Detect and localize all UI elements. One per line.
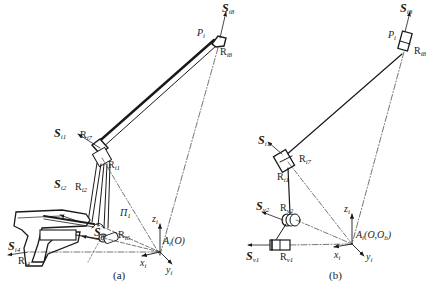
label-a-p-i: Pi (197, 28, 205, 40)
label-b-p-i: Pi (388, 30, 396, 42)
label-a-z-axis: zi (152, 214, 158, 226)
label-a-s-i2: Si2 (54, 178, 66, 192)
label-b-s-i1: Si1 (258, 134, 270, 148)
diagram-graphics (0, 0, 431, 288)
label-a-r-i2: Ri2 (75, 182, 87, 194)
label-b-r-v2: Rv2 (280, 203, 293, 215)
label-b-r-i8: Ri8 (414, 46, 426, 58)
label-a-s-i6: Si6 (94, 226, 106, 240)
label-b-origin: Ai(O,Ob) (356, 230, 391, 242)
caption-a: (a) (113, 270, 125, 281)
label-a-y-axis: yi (166, 265, 172, 277)
mechanism-diagram: Si8 Pi Ri8 Si1 Ri7 Ri1 Si2 Ri2 Π1 Si6 Ri… (0, 0, 431, 288)
label-b-y-axis: yi (366, 252, 372, 264)
label-a-s-i8: Si8 (222, 2, 234, 16)
panel-a-graphics (8, 12, 226, 266)
label-b-s-v1: Sv1 (246, 250, 259, 264)
label-b-x-axis: xi (334, 250, 340, 262)
label-a-r-i6: Ri6 (118, 230, 130, 242)
label-b-r-i1: Ri1 (277, 172, 289, 184)
label-a-s-i1: Si1 (54, 127, 66, 141)
caption-b: (b) (329, 270, 342, 281)
label-a-r-i7: Ri7 (80, 130, 92, 142)
panel-b-graphics (248, 12, 412, 256)
label-b-r-i7: Ri7 (299, 154, 311, 166)
label-b-r-v1: Rv1 (280, 252, 293, 264)
label-a-r-i4: Ri4 (18, 256, 30, 268)
label-b-s-i8: Si8 (400, 2, 412, 16)
label-b-s-v2: Sv2 (256, 200, 269, 214)
label-a-s-i4: Si4 (8, 240, 20, 254)
label-a-pi-1: Π1 (120, 208, 131, 220)
label-a-r-i8: Ri8 (220, 47, 232, 59)
label-a-r-i1: Ri1 (108, 160, 120, 172)
label-b-z-axis: zi (344, 204, 350, 216)
label-a-origin: Ai(O) (163, 236, 185, 248)
label-a-x-axis: xi (140, 258, 146, 270)
